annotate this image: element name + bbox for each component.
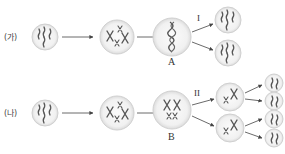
arrow xyxy=(245,132,262,138)
arrow xyxy=(245,85,262,93)
gamete-cell xyxy=(265,92,283,110)
cell-b xyxy=(153,91,191,129)
parent-cell xyxy=(32,100,58,126)
row-label-ga: (가) xyxy=(4,31,17,42)
daughter-cell xyxy=(215,7,241,33)
row-label-na: (나) xyxy=(4,107,17,118)
row-na xyxy=(32,74,283,147)
cell-a xyxy=(153,18,191,56)
cell-label-b: B xyxy=(168,131,175,142)
arrow xyxy=(192,24,213,32)
process-label-i: I xyxy=(197,13,200,23)
gamete-cell xyxy=(265,110,283,128)
replicated-cell xyxy=(100,20,134,54)
gamete-cell xyxy=(265,74,283,92)
arrow xyxy=(245,119,262,126)
arrow xyxy=(192,116,214,126)
secondary-cell xyxy=(216,83,244,111)
cell-division-diagram xyxy=(0,0,285,154)
arrow xyxy=(192,42,213,50)
arrow xyxy=(192,99,214,105)
process-label-ii: II xyxy=(194,88,200,98)
gamete-cell xyxy=(265,129,283,147)
parent-cell xyxy=(32,24,58,50)
secondary-cell xyxy=(216,114,244,142)
replicated-cell xyxy=(100,96,134,130)
cell-label-a: A xyxy=(168,56,175,67)
arrow xyxy=(245,99,262,101)
daughter-cell xyxy=(215,40,241,66)
row-ga xyxy=(32,7,241,66)
